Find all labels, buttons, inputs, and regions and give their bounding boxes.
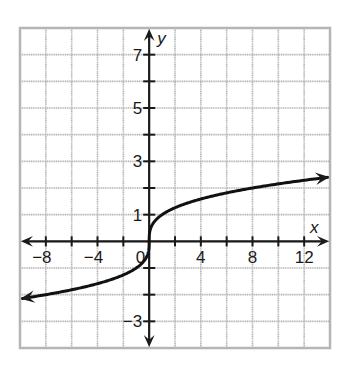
cube-root-graph: −8−404812 7531−3 x y [0, 0, 344, 372]
x-tick-label: −4 [84, 248, 103, 267]
x-tick-label: 4 [196, 248, 205, 267]
x-axis-label: x [309, 218, 319, 237]
x-tick-labels: −8−404812 [32, 248, 313, 267]
y-tick-label: 7 [133, 46, 142, 65]
y-tick-label: 1 [133, 206, 142, 225]
y-tick-label: 5 [133, 99, 142, 118]
y-tick-label: −3 [123, 312, 142, 331]
y-axis-label: y [156, 29, 167, 48]
x-tick-label: −8 [32, 248, 51, 267]
grid-lines [20, 28, 330, 348]
x-tick-label: 8 [248, 248, 257, 267]
x-tick-label: 12 [295, 248, 314, 267]
y-tick-label: 3 [133, 152, 142, 171]
